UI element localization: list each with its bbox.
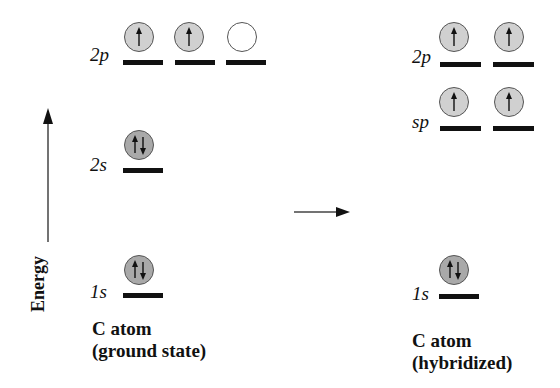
ground-2p-bar-3	[226, 60, 266, 65]
hybrid-1s-label: 1s	[412, 284, 429, 303]
spin-up-icon	[125, 23, 153, 51]
spin-pair-icon	[125, 256, 153, 284]
hybrid-2p-orbital-1	[439, 22, 469, 52]
hybrid-2p-orbital-2	[494, 22, 524, 52]
ground-2p-bar-1	[123, 60, 163, 65]
hybrid-sp-bar-2	[493, 126, 534, 131]
ground-2p-label: 2p	[90, 45, 109, 64]
hybrid-caption-subtitle: (hybridized)	[412, 352, 512, 374]
hybrid-1s-orbital	[439, 255, 469, 285]
hybrid-sp-bar-1	[440, 126, 481, 131]
ground-1s-orbital	[124, 255, 154, 285]
right-arrow-icon	[292, 206, 352, 218]
ground-2p-orbital-1	[124, 22, 154, 52]
spin-up-icon	[495, 88, 523, 116]
ground-2s-label: 2s	[90, 155, 107, 174]
ground-caption-title: C atom	[92, 318, 152, 340]
ground-1s-bar	[123, 293, 163, 298]
hybrid-sp-label: sp	[412, 112, 429, 131]
hybrid-1s-bar	[439, 294, 479, 299]
ground-2s-orbital	[124, 130, 154, 160]
hybrid-2p-bar-2	[493, 62, 534, 67]
ground-2p-orbital-3-empty	[227, 22, 257, 52]
ground-caption-subtitle: (ground state)	[92, 340, 206, 362]
hybrid-2p-label: 2p	[412, 47, 431, 66]
energy-axis-arrow-icon	[40, 108, 56, 244]
ground-2s-bar	[123, 168, 163, 173]
hybrid-caption-title: C atom	[412, 330, 472, 352]
ground-1s-label: 1s	[90, 282, 107, 301]
spin-up-icon	[175, 23, 203, 51]
ground-2p-orbital-2	[174, 22, 204, 52]
spin-up-icon	[495, 23, 523, 51]
spin-up-icon	[440, 88, 468, 116]
spin-pair-icon	[440, 256, 468, 284]
hybrid-sp-orbital-1	[439, 87, 469, 117]
hybrid-2p-bar-1	[440, 62, 481, 67]
spin-pair-icon	[125, 131, 153, 159]
hybrid-sp-orbital-2	[494, 87, 524, 117]
spin-up-icon	[440, 23, 468, 51]
ground-2p-bar-2	[175, 60, 215, 65]
energy-axis-label: Energy	[28, 252, 58, 312]
